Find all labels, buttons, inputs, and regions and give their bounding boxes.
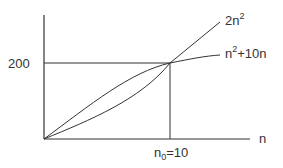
curve-label-2n2: 2n2 xyxy=(225,14,244,27)
y-tick-label-200: 200 xyxy=(8,57,30,70)
curve-n2-plus-10n xyxy=(44,55,220,139)
label-base: 2n xyxy=(225,13,239,28)
x-marker-label: n0=10 xyxy=(154,146,188,159)
curve-2n2 xyxy=(44,22,220,139)
curve-label-n2-plus-10n: n2+10n xyxy=(225,47,267,60)
label-sup: 2 xyxy=(232,44,237,54)
x-axis-label: n xyxy=(259,132,266,145)
marker-sub: 0 xyxy=(161,152,166,162)
label-rest: +10n xyxy=(237,46,266,61)
label-sup: 2 xyxy=(239,11,244,21)
marker-rest: =10 xyxy=(166,145,188,160)
